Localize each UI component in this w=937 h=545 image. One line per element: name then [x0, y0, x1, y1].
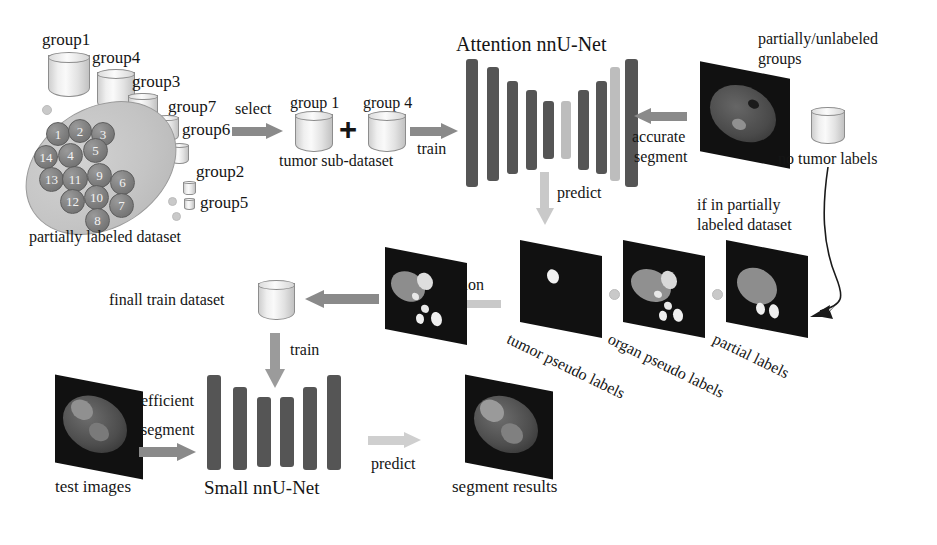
- partial-labels-caption: partial labels: [710, 330, 792, 382]
- unet-bar: [487, 67, 499, 181]
- cylinder-group5: [184, 199, 195, 210]
- slice-content: [623, 240, 705, 338]
- cylinder-top: [368, 111, 406, 121]
- unet-bar-attention: [610, 67, 620, 181]
- cylinder-top: [184, 198, 195, 201]
- dataset-node: 1: [46, 122, 70, 146]
- predict-arrow-bottom: [368, 432, 422, 448]
- ct-slice-unlabeled: [700, 61, 790, 168]
- organ-label-blob: [416, 313, 424, 325]
- speck-dot: [172, 212, 181, 221]
- unet-bar: [526, 90, 537, 170]
- predict-label-bottom: predict: [371, 455, 415, 473]
- cylinder-group1: [48, 55, 90, 97]
- condition-line2: labeled dataset: [697, 216, 792, 234]
- select-group-four-label: group 4: [363, 94, 412, 112]
- select-arrow: [232, 123, 284, 139]
- efficient-segment-arrow: [139, 443, 197, 460]
- select-label: select: [235, 100, 271, 118]
- speck-dot: [168, 197, 177, 206]
- test-images-caption: test images: [55, 477, 131, 497]
- group-label-group3: group3: [132, 72, 180, 92]
- train-arrow-top: [410, 123, 460, 139]
- speck-dot: [712, 289, 723, 300]
- small-unet-bar: [207, 375, 221, 470]
- organ-label-blob: [659, 310, 667, 322]
- segment-label: segment: [634, 148, 687, 166]
- slice-content: [465, 374, 553, 479]
- ct-slice-organ-pseudo: [623, 240, 705, 338]
- speck-dot: [42, 105, 52, 115]
- dataset-node: 5: [83, 138, 108, 163]
- train-arrow-down: [265, 333, 285, 389]
- ct-slice-test-images: [55, 374, 143, 479]
- tumor-subdataset-caption: tumor sub-dataset: [279, 152, 393, 170]
- cylinder-tumor-group1: [295, 114, 333, 152]
- cylinder-final-train-dataset: [258, 283, 295, 320]
- select-group-one-label: group 1: [290, 94, 339, 112]
- small-unet-bar: [233, 387, 247, 470]
- dataset-node: 13: [39, 167, 64, 192]
- arrow-shaft: [650, 112, 687, 121]
- slice-content: [520, 240, 602, 338]
- small-nnunet-title: Small nnU-Net: [204, 477, 320, 499]
- arrow-shaft: [270, 333, 280, 371]
- dataset-node: 7: [109, 193, 134, 218]
- attention-net-title: Attention nnU-Net: [456, 33, 607, 56]
- slice-content: [385, 247, 467, 345]
- cylinder-tumor-group4: [368, 114, 406, 152]
- partial-label-blob: [769, 303, 779, 319]
- ct-slice-fused: [385, 247, 467, 345]
- arrow-shaft: [139, 447, 179, 457]
- plus-sign: +: [339, 112, 357, 148]
- slice-content: [55, 374, 143, 479]
- figure-canvas: group1 group4 group3 group7 group6 group…: [0, 0, 937, 545]
- cylinder-top: [258, 280, 295, 290]
- condition-line1: if in partially: [697, 196, 781, 214]
- dataset-node: 4: [58, 143, 83, 168]
- accurate-segment-arrow: [634, 108, 688, 124]
- arrow-head: [266, 123, 283, 139]
- organ-blob: [710, 79, 776, 148]
- arrow-head: [536, 208, 554, 225]
- dataset-node: 11: [62, 166, 88, 192]
- organ-label-blob: [431, 311, 442, 327]
- arrow-head: [177, 443, 196, 461]
- arrow-head: [305, 290, 324, 308]
- organ-label-blob: [421, 304, 429, 314]
- arrow-shaft: [368, 436, 406, 445]
- arrow-head: [441, 123, 458, 139]
- arrow-shaft: [232, 127, 268, 136]
- arrow-shaft: [540, 172, 549, 210]
- final-dataset-arrow: [305, 290, 379, 308]
- train-label-top: train: [417, 140, 446, 158]
- arrow-head: [404, 432, 421, 448]
- ct-slice-segment-results: [465, 374, 553, 479]
- unet-bar: [466, 59, 478, 187]
- ct-slice-tumor-pseudo: [520, 240, 602, 338]
- cylinder-top: [295, 111, 333, 121]
- group-label-group7: group7: [168, 97, 216, 117]
- cylinder-group2: [183, 182, 196, 195]
- dataset-node: 6: [110, 170, 135, 195]
- dataset-node: 10: [84, 185, 109, 210]
- small-unet-bar: [327, 375, 341, 470]
- predict-label-middle: predict: [557, 184, 601, 202]
- small-unet-bar: [257, 397, 271, 467]
- unet-bar: [543, 101, 554, 159]
- group-label-group6: group6: [182, 120, 230, 140]
- arrow-shaft: [323, 294, 379, 304]
- train-label-bottom: train: [290, 341, 319, 359]
- dataset-node: 12: [60, 189, 85, 214]
- final-train-dataset-label: finall train dataset: [109, 291, 225, 309]
- segment-label-bottom: segment: [141, 421, 194, 439]
- predict-arrow-down: [535, 172, 553, 226]
- group-label-group1: group1: [42, 30, 90, 50]
- arrow-shaft: [410, 127, 443, 136]
- cylinder-top: [48, 52, 90, 63]
- unlabeled-groups-line1: partially/unlabeled: [758, 30, 878, 48]
- group-label-group5: group5: [200, 193, 248, 213]
- accurate-label: accurate: [632, 128, 685, 146]
- organ-label-blob: [737, 264, 777, 308]
- unet-bar: [578, 90, 589, 170]
